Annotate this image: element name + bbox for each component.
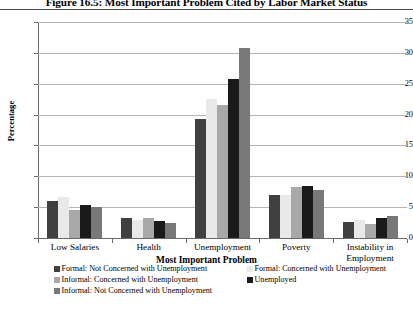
legend-swatch: [247, 277, 253, 283]
x-axis-category-label: Health: [108, 242, 190, 253]
bar-group: [269, 22, 324, 238]
legend-item: Informal: Not Concerned with Unemploymen…: [54, 286, 212, 295]
bar-group: [47, 22, 102, 238]
legend-label: Formal: Not Concerned with Unemployment: [62, 264, 208, 273]
x-axis-category-label: Poverty: [255, 242, 337, 253]
legend-swatch: [54, 288, 60, 294]
bar: [47, 201, 58, 238]
plot-region: [38, 22, 407, 238]
bar: [91, 207, 102, 238]
legend-item: Formal: Concerned with Unemployment: [247, 264, 386, 273]
chart-legend: Formal: Not Concerned with UnemploymentF…: [54, 264, 404, 304]
bar: [291, 187, 302, 238]
bar-group: [121, 22, 176, 238]
bar: [217, 105, 228, 238]
bar: [387, 216, 398, 238]
legend-label: Unemployed: [255, 275, 297, 284]
legend-label: Formal: Concerned with Unemployment: [255, 264, 387, 273]
bar: [206, 99, 217, 238]
bar: [228, 79, 239, 238]
legend-item: Unemployed: [247, 275, 296, 284]
legend-swatch: [54, 277, 60, 283]
bar-chart: Percentage 05101520253035 Low SalariesHe…: [0, 10, 413, 255]
bar-group: [343, 22, 398, 238]
legend-item: Formal: Not Concerned with Unemployment: [54, 264, 207, 273]
bar: [239, 48, 250, 238]
bar: [121, 218, 132, 238]
bar: [58, 197, 69, 238]
bar: [343, 222, 354, 238]
x-axis-category-label: Low Salaries: [34, 242, 116, 253]
bar-group: [195, 22, 250, 238]
bar: [143, 218, 154, 238]
legend-item: Informal: Concerned with Unemployment: [54, 275, 198, 284]
bar: [302, 186, 313, 238]
legend-label: Informal: Not Concerned with Unemploymen…: [62, 286, 213, 295]
gridline: [38, 238, 407, 239]
bar: [280, 195, 291, 238]
y-axis-title: Percentage: [6, 86, 16, 156]
bar: [313, 190, 324, 238]
legend-swatch: [247, 266, 253, 272]
bar: [80, 205, 91, 238]
figure-title: Figure 16.5: Most Important Problem Cite…: [0, 0, 413, 8]
bar: [132, 220, 143, 239]
bar: [354, 220, 365, 239]
bar: [165, 223, 176, 238]
bar: [376, 218, 387, 238]
legend-swatch: [54, 266, 60, 272]
bar: [269, 195, 280, 238]
legend-label: Informal: Concerned with Unemployment: [62, 275, 198, 284]
bar: [195, 119, 206, 238]
bar: [69, 210, 80, 238]
bar: [365, 224, 376, 238]
x-axis-category-label: Unemployment: [182, 242, 264, 253]
bar: [154, 221, 165, 238]
